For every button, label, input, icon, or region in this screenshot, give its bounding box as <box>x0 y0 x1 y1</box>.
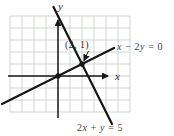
grid-lines <box>10 16 130 112</box>
y-axis-label: y <box>58 1 63 12</box>
point-label: (2, 1) <box>65 40 89 50</box>
line1-equation-label: x − 2y = 0 <box>117 42 163 52</box>
graph-canvas <box>0 0 174 136</box>
line2-equation-label: 2x + y = 5 <box>77 123 123 133</box>
graph-figure: y x (2, 1) x − 2y = 0 2x + y = 5 <box>0 0 174 136</box>
point-dot <box>79 61 84 66</box>
x-axis-label: x <box>115 71 120 82</box>
point-dot <box>55 73 60 78</box>
